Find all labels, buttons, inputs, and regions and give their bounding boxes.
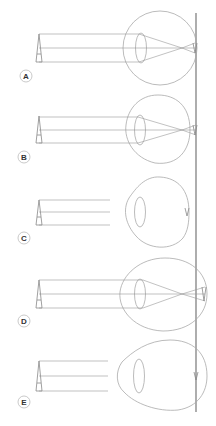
label-a-text: A [23,72,29,81]
object-arrow-icon [36,116,42,143]
label-d-text: D [21,317,27,326]
light-rays [39,361,108,391]
eyeball-outline [126,95,190,163]
panel-e: E [18,340,207,410]
eye-refraction-diagram: A B [0,0,216,426]
inverted-image-icon [185,208,189,216]
label-e-text: E [21,398,27,407]
panel-a: A [20,11,197,85]
label-b-text: B [21,153,27,162]
object-arrow-icon [36,200,42,225]
light-rays [39,117,196,143]
panel-d: D [18,258,207,331]
diagram-canvas: A B [0,0,216,426]
label-c-text: C [21,234,27,243]
eyeball-outline [120,258,207,331]
light-rays [39,200,110,225]
eyeball-outline [125,177,189,247]
panel-c: C [18,177,189,247]
label-c: C [18,232,30,244]
label-b: B [18,151,30,163]
light-rays [39,34,195,62]
lens [134,359,145,393]
eyeball-outline [117,340,207,410]
lens [135,197,146,227]
panel-b: B [18,95,197,163]
label-a: A [20,70,32,82]
label-d: D [18,315,30,327]
label-e: E [18,396,30,408]
